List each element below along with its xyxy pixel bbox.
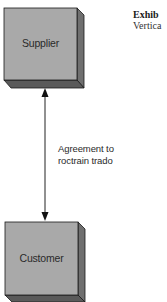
supplier-label: Supplier: [4, 37, 77, 49]
arrowhead-up-icon: [42, 88, 49, 97]
exhibit-caption: Exhib Vertica: [133, 9, 161, 31]
edge-label-line-2: roctrain trado: [58, 155, 114, 167]
customer-label: Customer: [5, 252, 78, 264]
bidirectional-arrow: [42, 88, 49, 221]
edge-label-line-1: Agreement to: [58, 143, 114, 155]
diagram-canvas: Supplier Customer Agreement to roctrain …: [0, 0, 167, 302]
arrowhead-down-icon: [42, 212, 49, 221]
edge-label: Agreement to roctrain trado: [58, 143, 114, 167]
exhibit-title: Exhib: [133, 9, 161, 20]
exhibit-subtitle: Vertica: [133, 20, 161, 31]
